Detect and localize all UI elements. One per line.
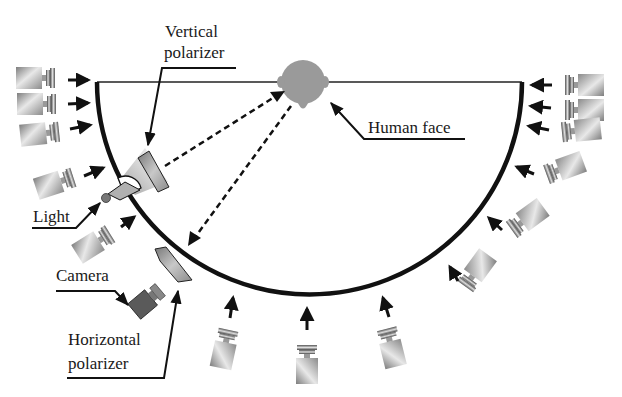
light-stage-diagram: Vertical polarizer Human face Light Came… bbox=[0, 0, 622, 397]
left-cameras bbox=[16, 67, 116, 264]
label-vertical-polarizer-line1: Vertical bbox=[165, 22, 218, 41]
main-camera-icon bbox=[128, 282, 167, 319]
callout-human-face: Human face bbox=[331, 103, 465, 139]
label-light: Light bbox=[33, 207, 70, 226]
label-vertical-polarizer-line2: polarizer bbox=[164, 43, 225, 62]
label-camera: Camera bbox=[56, 266, 109, 285]
right-cameras bbox=[456, 74, 604, 293]
light-bulb-icon bbox=[102, 194, 111, 203]
callout-light: Light bbox=[32, 203, 100, 228]
callout-vertical-polarizer: Vertical polarizer bbox=[148, 22, 236, 145]
bottom-cameras bbox=[210, 326, 407, 384]
human-face-icon bbox=[277, 60, 329, 109]
callout-horizontal-polarizer: Horizontal polarizer bbox=[67, 291, 178, 378]
label-human-face: Human face bbox=[368, 118, 451, 137]
bottom-camera-arrows bbox=[230, 298, 389, 330]
right-camera-arrows bbox=[450, 85, 552, 281]
label-horizontal-polarizer-line2: polarizer bbox=[68, 354, 129, 373]
left-camera-arrows bbox=[68, 80, 134, 227]
label-horizontal-polarizer-line1: Horizontal bbox=[68, 330, 141, 349]
horizontal-polarizer-icon bbox=[155, 247, 192, 282]
light-path-arrows bbox=[165, 91, 291, 246]
callout-camera: Camera bbox=[56, 266, 128, 305]
